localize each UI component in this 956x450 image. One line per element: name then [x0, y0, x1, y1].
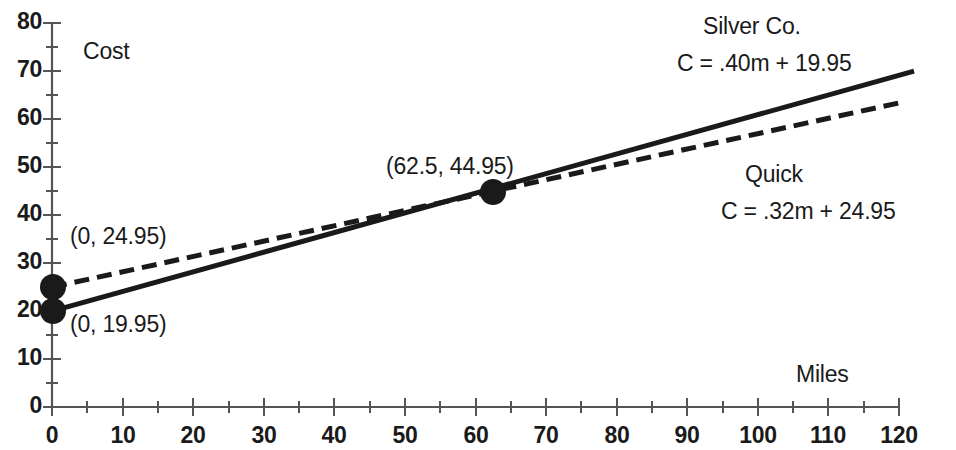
y-axis-title: Cost	[83, 40, 130, 63]
quick-equation: C = .32m + 24.95	[721, 200, 896, 223]
x-tick-label-90: 90	[657, 424, 717, 447]
x-axis-title: Miles	[796, 363, 849, 386]
quick-intercept-point-label: (0, 24.95)	[70, 225, 166, 248]
y-tick-label-20: 20	[0, 298, 42, 321]
silver-co-equation: C = .40m + 19.95	[677, 52, 852, 75]
y-tick-label-10: 10	[0, 346, 42, 369]
x-tick-label-30: 30	[234, 424, 294, 447]
data-point-intersection	[480, 179, 506, 205]
silver-co-label: Silver Co.	[703, 15, 801, 38]
x-tick-label-80: 80	[587, 424, 647, 447]
y-tick-label-70: 70	[0, 58, 42, 81]
y-tick-label-30: 30	[0, 250, 42, 273]
x-tick-label-100: 100	[728, 424, 788, 447]
x-tick-label-40: 40	[304, 424, 364, 447]
x-tick-label-70: 70	[516, 424, 576, 447]
x-tick-label-10: 10	[93, 424, 153, 447]
x-tick-label-60: 60	[446, 424, 506, 447]
intersection-point-label: (62.5, 44.95)	[386, 155, 514, 178]
cost-vs-miles-chart: 80 70 60 50 40 30 20 10 0 0 10 20 30 40 …	[0, 0, 956, 450]
data-point-quick-intercept	[40, 274, 66, 300]
silver-intercept-point-label: (0, 19.95)	[70, 313, 166, 336]
x-tick-label-0: 0	[22, 424, 82, 447]
data-point-silver-intercept	[40, 298, 66, 324]
x-tick-label-110: 110	[798, 424, 858, 447]
x-tick-label-120: 120	[869, 424, 929, 447]
y-tick-label-40: 40	[0, 202, 42, 225]
quick-label: Quick	[745, 163, 803, 186]
y-tick-label-60: 60	[0, 106, 42, 129]
y-tick-label-50: 50	[0, 154, 42, 177]
y-tick-label-80: 80	[0, 10, 42, 33]
y-tick-label-0: 0	[0, 394, 42, 417]
x-tick-label-50: 50	[375, 424, 435, 447]
x-tick-label-20: 20	[163, 424, 223, 447]
